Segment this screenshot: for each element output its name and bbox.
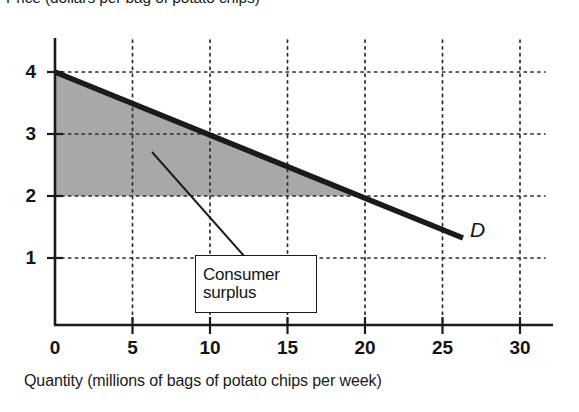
demand-curve-label: D: [470, 218, 485, 242]
y-tick-label-2: 2: [10, 186, 36, 205]
x-tick-label-15: 15: [268, 338, 308, 357]
x-axis-title: Quantity (millions of bags of potato chi…: [24, 372, 382, 390]
y-tick-label-3: 3: [10, 124, 36, 143]
consumer-surplus-label-line1: Consumer: [203, 266, 316, 284]
y-tick-label-4: 4: [10, 62, 36, 81]
chart-figure: Price (dollars per bag of potato chips): [0, 0, 579, 412]
x-tick-label-25: 25: [423, 338, 463, 357]
x-tick-label-5: 5: [113, 338, 153, 357]
consumer-surplus-label-line2: surplus: [203, 284, 316, 302]
x-tick-label-20: 20: [345, 338, 385, 357]
y-tick-label-1: 1: [10, 248, 36, 267]
consumer-surplus-callout-box: Consumer surplus: [195, 255, 317, 313]
x-tick-label-0: 0: [35, 338, 75, 357]
x-tick-label-30: 30: [500, 338, 540, 357]
x-tick-label-10: 10: [190, 338, 230, 357]
